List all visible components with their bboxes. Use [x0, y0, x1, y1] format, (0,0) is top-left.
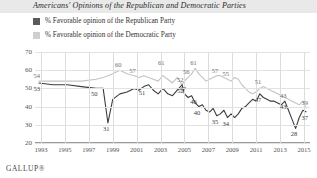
gridline-horizontal	[35, 70, 310, 71]
x-axis-tick-label: 2005	[172, 146, 196, 153]
y-axis-tick-label: 60	[18, 66, 32, 74]
data-point-label: 35	[212, 118, 219, 125]
data-point-label: 47	[255, 96, 262, 103]
y-axis-tick-label: 50	[18, 84, 32, 92]
x-axis-tick-label: 1995	[53, 146, 77, 153]
data-point-label: 43	[280, 92, 287, 99]
y-axis-tick-label: 70	[18, 48, 32, 56]
gridline-vertical	[304, 52, 305, 143]
x-axis-tick-label: 2001	[125, 146, 149, 153]
data-point-label: 60	[115, 61, 122, 68]
x-axis-tick-label: 2009	[220, 146, 244, 153]
gridline-vertical	[184, 52, 185, 143]
data-point-label: 51	[139, 89, 146, 96]
data-point-label: 46	[190, 98, 197, 105]
legend-label-democratic: % Favorable opinion of the Democratic Pa…	[45, 31, 176, 39]
data-point-label: 34	[223, 120, 230, 127]
gridline-vertical	[232, 52, 233, 143]
data-point-label: 57	[212, 67, 219, 74]
x-axis-tick-label: 2011	[244, 146, 268, 153]
data-point-label: 50	[91, 90, 98, 97]
x-axis-tick-label: 2003	[149, 146, 173, 153]
plot-area	[35, 52, 310, 143]
data-point-label: 54	[34, 72, 41, 79]
data-point-label: 40	[194, 109, 201, 116]
gridline-horizontal	[35, 52, 310, 53]
gridline-vertical	[89, 52, 90, 143]
data-point-label: 55	[223, 70, 230, 77]
gridline-vertical	[137, 52, 138, 143]
gridline-vertical	[113, 52, 114, 143]
data-point-label: 61	[158, 59, 165, 66]
x-axis-tick-label: 2007	[196, 146, 220, 153]
data-point-label: 56	[183, 68, 190, 75]
gridline-vertical	[41, 52, 42, 143]
data-point-label: 43	[280, 103, 287, 110]
data-point-label: 57	[129, 67, 136, 74]
data-point-label: 53	[34, 85, 41, 92]
y-axis-tick-label: 30	[18, 121, 32, 129]
gridline-horizontal	[35, 125, 310, 126]
data-point-label: 39	[301, 99, 308, 106]
gridline-vertical	[208, 52, 209, 143]
y-axis-tick-label: 40	[18, 103, 32, 111]
gridline-horizontal	[35, 88, 310, 89]
data-point-label: 47	[179, 85, 186, 92]
data-point-label: 28	[291, 130, 298, 137]
gridline-horizontal	[35, 107, 310, 108]
chart-container: Americans' Opinions of the Republican an…	[0, 0, 317, 178]
x-axis-tick-label: 1997	[77, 146, 101, 153]
x-axis-tick-label: 2013	[268, 146, 292, 153]
footer-brand: GALLUP®	[6, 164, 45, 173]
data-point-label: 31	[103, 125, 110, 132]
data-point-label: 61	[190, 59, 197, 66]
legend-label-republican: % Favorable opinion of the Republican Pa…	[45, 17, 175, 25]
data-point-label: 51	[255, 78, 262, 85]
legend-swatch-republican-icon	[33, 18, 40, 25]
page-title: Americans' Opinions of the Republican an…	[33, 1, 246, 10]
legend-swatch-democratic-icon	[33, 32, 40, 39]
data-point-label: 37	[301, 114, 308, 121]
x-axis-tick-label: 1993	[29, 146, 53, 153]
x-axis-tick-label: 1999	[101, 146, 125, 153]
x-axis-tick-label: 2015	[292, 146, 316, 153]
series-lines	[35, 52, 310, 143]
gridline-vertical	[65, 52, 66, 143]
data-point-label: 52	[177, 76, 184, 83]
gridline-horizontal	[35, 143, 310, 144]
